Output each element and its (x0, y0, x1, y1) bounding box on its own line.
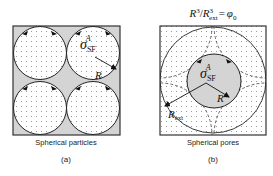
particle-bottom-left (14, 82, 67, 135)
particle-bottom-right (67, 82, 120, 135)
equation-title: R3/R3ext=φ0 (189, 7, 237, 22)
caption-a: Spherical particles (35, 138, 97, 147)
caption-b: Spherical pores (187, 138, 239, 147)
sublabel-a: (a) (61, 155, 71, 164)
sublabel-b: (b) (208, 155, 218, 164)
radius-label-a: R (94, 69, 102, 81)
panel-a: σSFA R Spherical particles (a) (13, 26, 120, 164)
radius-label-b: R (216, 92, 224, 104)
diagram-canvas: σSFA R Spherical particles (a) R3/R3ext=… (0, 0, 273, 176)
particle-top-left (14, 27, 67, 80)
panel-b: R3/R3ext=φ0 σSFA R Rext Spherical pores … (108, 0, 273, 176)
